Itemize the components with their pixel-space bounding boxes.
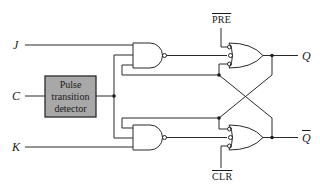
or-upper-bubble-mid: [229, 54, 233, 58]
nand-gate-lower: [133, 125, 163, 150]
input-label-j: J: [13, 39, 18, 51]
preset-label: PRE: [212, 15, 231, 25]
junction-dot-lower-left: [217, 116, 221, 120]
nand-upper-bubble: [163, 54, 167, 58]
detector-line-1: Pulse: [60, 79, 82, 91]
junction-dot-upper-left: [217, 73, 221, 77]
input-label-k: K: [12, 141, 20, 153]
or-gate-lower: [229, 125, 263, 150]
wire-or-lower-in1: [219, 118, 228, 129]
clear-label: CLR: [212, 172, 232, 182]
wire-clr: [221, 146, 228, 168]
nand-lower-bubble: [163, 136, 167, 140]
output-label-qbar: Q: [302, 132, 311, 144]
wire-or-upper-in3: [219, 64, 228, 75]
junction-dot-clock: [112, 94, 116, 98]
nand-gate-upper: [133, 43, 163, 68]
wire-feedback-lower: [122, 118, 219, 128]
or-lower-bubble-mid: [229, 136, 233, 140]
or-gate-upper: [229, 43, 263, 68]
detector-line-3: detector: [54, 103, 86, 115]
input-label-c: C: [12, 90, 20, 102]
wire-clock-bus: [114, 55, 133, 138]
junction-dot-q: [270, 54, 274, 58]
wire-pre: [221, 28, 228, 47]
junction-dot-qbar: [270, 136, 274, 140]
detector-line-2: transition: [52, 91, 90, 103]
output-label-q: Q: [302, 50, 311, 62]
detector-label: Pulse transition detector: [45, 77, 96, 117]
wire-feedback-upper: [122, 65, 219, 75]
